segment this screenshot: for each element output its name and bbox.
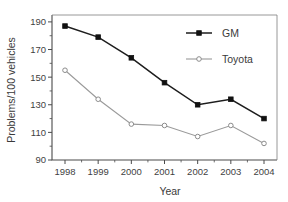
legend-label-gm: GM bbox=[222, 27, 239, 39]
data-point-toyota bbox=[96, 97, 101, 102]
y-tick-label: 150 bbox=[30, 72, 46, 83]
data-point-gm bbox=[195, 102, 200, 107]
x-axis-title: Year bbox=[159, 185, 181, 197]
data-point-gm bbox=[63, 24, 68, 29]
series-line-gm bbox=[65, 26, 264, 119]
x-tick-label: 2001 bbox=[154, 166, 175, 177]
y-axis-title: Problems/100 vehicles bbox=[5, 37, 17, 143]
x-tick-label: 2003 bbox=[220, 166, 241, 177]
data-point-toyota bbox=[195, 134, 200, 139]
x-tick-label: 2004 bbox=[253, 166, 274, 177]
x-tick-label: 2000 bbox=[121, 166, 142, 177]
data-point-gm bbox=[129, 56, 134, 61]
x-tick-label: 1999 bbox=[88, 166, 109, 177]
data-point-toyota bbox=[63, 68, 68, 73]
data-point-toyota bbox=[229, 123, 234, 128]
y-tick-label: 190 bbox=[30, 16, 46, 27]
line-chart: 90110130150170190 1998199920002001200220… bbox=[0, 0, 288, 202]
axis-lines bbox=[52, 15, 277, 160]
plot-border bbox=[52, 15, 277, 160]
legend-marker-toyota bbox=[197, 57, 202, 62]
plot-frame bbox=[52, 15, 277, 160]
y-tick-label: 110 bbox=[31, 127, 46, 138]
legend-marker-gm bbox=[197, 31, 202, 36]
data-point-toyota bbox=[162, 123, 167, 128]
y-axis-ticks: 90110130150170190 bbox=[30, 16, 52, 165]
chart-figure: 90110130150170190 1998199920002001200220… bbox=[0, 0, 288, 202]
y-tick-label: 90 bbox=[35, 154, 46, 165]
data-point-gm bbox=[229, 97, 234, 102]
x-axis-ticks: 1998199920002001200220032004 bbox=[54, 160, 274, 177]
x-tick-label: 1998 bbox=[54, 166, 75, 177]
series-layer bbox=[63, 24, 267, 146]
y-tick-label: 170 bbox=[30, 44, 46, 55]
data-point-toyota bbox=[129, 122, 134, 127]
x-tick-label: 2002 bbox=[187, 166, 208, 177]
data-point-toyota bbox=[262, 141, 267, 146]
data-point-gm bbox=[96, 35, 101, 40]
data-point-gm bbox=[162, 80, 167, 85]
legend-label-toyota: Toyota bbox=[222, 53, 253, 65]
data-point-gm bbox=[262, 116, 267, 121]
y-tick-label: 130 bbox=[30, 99, 46, 110]
chart-legend: GMToyota bbox=[186, 27, 253, 65]
